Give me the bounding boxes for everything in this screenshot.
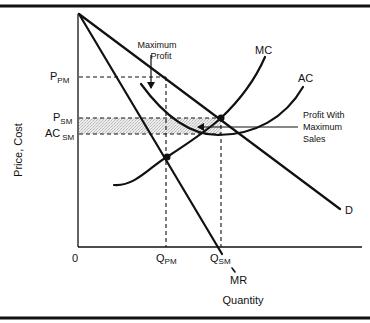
demand-label: D (345, 204, 353, 216)
ac-sm-sub: SM (62, 133, 74, 142)
q-pm-sub: PM (165, 257, 177, 266)
max-profit-label-line1: Maximum (137, 40, 176, 50)
max-sales-label-line3: Sales (303, 134, 326, 144)
max-profit-label-line2: Profit (150, 51, 172, 61)
p-pm-main: P (50, 70, 57, 82)
max-sales-label-line1: Profit With (303, 110, 345, 120)
x-axis-label: Quantity (223, 294, 264, 306)
q-pm-label: QPM (156, 252, 177, 266)
max-sales-label-line2: Maximum (303, 122, 342, 132)
y-axis-label: Price, Cost (12, 123, 24, 177)
q-sm-sub: SM (219, 257, 231, 266)
p-sm-sub: SM (60, 117, 72, 126)
demand-curve (79, 14, 340, 209)
mc-mr-intersection-dot (164, 154, 171, 161)
mc-label: MC (255, 44, 272, 56)
p-pm-label: PPM (50, 70, 70, 85)
origin-label: 0 (72, 252, 78, 264)
ac-sm-label: ACSM (45, 127, 75, 142)
mr-label: MR (230, 274, 247, 286)
ac-label: AC (298, 72, 313, 84)
q-sm-label: QSM (210, 252, 231, 266)
mc-demand-intersection-dot (218, 115, 225, 122)
p-pm-sub: PM (57, 76, 69, 85)
mr-label-leader (232, 268, 235, 272)
price-output-diagram: Price, Cost PPM PSM ACSM 0 QPM QSM MC AC… (0, 0, 370, 323)
p-sm-label: PSM (53, 111, 73, 126)
ac-sm-main: AC (45, 127, 60, 139)
p-sm-main: P (53, 111, 60, 123)
